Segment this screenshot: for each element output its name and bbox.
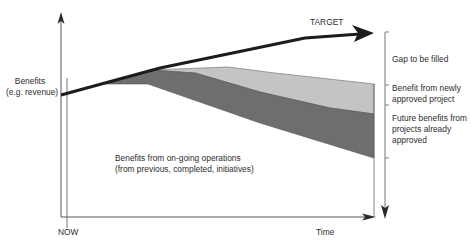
legend-gap-to-be-filled: Gap to be filled	[392, 54, 448, 65]
ongoing-operations-label: Benefits from on-going operations (from …	[115, 153, 254, 175]
legend-already-line3: approved	[392, 135, 467, 146]
legend-already-line2: projects already	[392, 124, 467, 135]
legend-already-approved-projects: Future benefits from projects already ap…	[392, 113, 467, 146]
legend-already-line1: Future benefits from	[392, 113, 467, 124]
legend-newly-line2: approved project	[392, 94, 461, 105]
target-label: TARGET	[310, 17, 343, 28]
legend-newly-approved-project: Benefit from newly approved project	[392, 83, 461, 105]
now-label: NOW	[58, 227, 78, 238]
y-axis-label: Benefits (e.g. revenue)	[6, 76, 54, 98]
legend-gap-line1: Gap to be filled	[392, 54, 448, 65]
legend-newly-line1: Benefit from newly	[392, 83, 461, 94]
x-axis-label: Time	[316, 227, 334, 238]
ongoing-label-line1: Benefits from on-going operations	[115, 153, 254, 164]
y-axis-label-line1: Benefits	[6, 76, 54, 87]
y-axis-label-line2: (e.g. revenue)	[6, 87, 54, 98]
ongoing-label-line2: (from previous, completed, initiatives)	[115, 164, 254, 175]
